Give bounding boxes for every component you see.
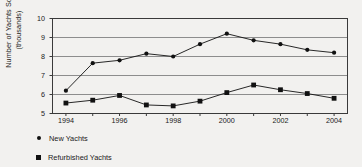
data-point-marker <box>171 104 176 109</box>
data-point-marker <box>332 51 336 55</box>
data-point-marker <box>64 89 68 93</box>
legend-item-label: Refurbished Yachts <box>48 153 112 162</box>
data-point-marker <box>224 90 229 95</box>
legend-square-marker-icon <box>36 155 41 160</box>
data-point-marker <box>198 99 203 104</box>
data-point-marker <box>278 87 283 92</box>
data-point-marker <box>144 103 149 108</box>
data-point-marker <box>117 58 121 62</box>
data-point-marker <box>252 38 256 42</box>
data-point-marker <box>198 42 202 46</box>
yacht-sales-line-chart: Number of Yachts Sold (thousands) 567891… <box>0 0 362 167</box>
data-point-marker <box>278 42 282 46</box>
data-point-marker <box>117 93 122 98</box>
data-point-marker <box>91 61 95 65</box>
legend-item-new-yachts[interactable]: New Yachts <box>33 132 88 144</box>
legend-item-refurbished-yachts[interactable]: Refurbished Yachts <box>33 151 112 163</box>
data-point-marker <box>225 32 229 36</box>
data-point-marker <box>305 48 309 52</box>
data-point-marker <box>64 101 69 106</box>
data-series <box>64 32 337 109</box>
legend-circle-marker-icon <box>37 136 41 140</box>
data-point-marker <box>332 96 337 101</box>
data-point-marker <box>90 98 95 103</box>
data-point-marker <box>171 54 175 58</box>
data-point-marker <box>144 52 148 56</box>
data-point-marker <box>305 91 310 96</box>
legend-item-label: New Yachts <box>49 134 88 143</box>
data-point-marker <box>251 83 256 88</box>
